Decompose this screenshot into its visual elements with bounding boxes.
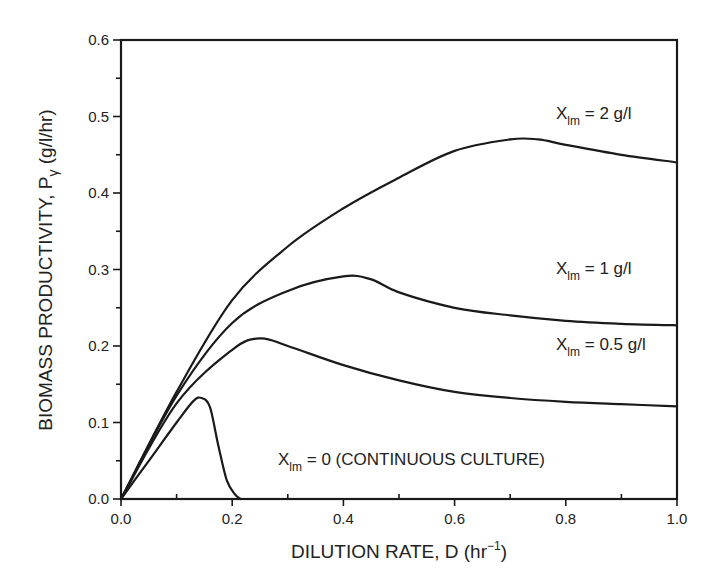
x-axis-title: DILUTION RATE, D (hr−1) [291, 539, 507, 562]
x-tick-label: 0.4 [333, 510, 354, 527]
series-label: Xlm = 1 g/l [556, 259, 632, 283]
x-tick-label: 1.0 [667, 510, 688, 527]
y-axis-title: BIOMASS PRODUCTIVITY, Pγ (g/l/hr) [35, 109, 61, 430]
y-tick-label: 0.1 [88, 414, 109, 431]
biomass-productivity-chart: 0.00.10.20.30.40.50.6 0.00.20.40.60.81.0… [0, 0, 707, 579]
x-tick-label: 0.6 [444, 510, 465, 527]
series-curve-2 [121, 338, 677, 499]
x-tick-label: 0.2 [222, 510, 243, 527]
series-label: Xlm = 2 g/l [556, 104, 632, 128]
y-tick-label: 0.0 [88, 490, 109, 507]
series-label: Xlm = 0.5 g/l [556, 335, 646, 359]
series-label: Xlm = 0 (CONTINUOUS CULTURE) [278, 450, 545, 474]
series-curves [121, 138, 677, 499]
y-tick-label: 0.4 [88, 184, 109, 201]
series-curve-3 [121, 397, 241, 499]
x-tick-label: 0.0 [111, 510, 132, 527]
y-tick-label: 0.6 [88, 31, 109, 48]
y-tick-label: 0.2 [88, 337, 109, 354]
series-annotations: Xlm = 2 g/lXlm = 1 g/lXlm = 0.5 g/lXlm =… [278, 104, 646, 474]
y-axis-ticks: 0.00.10.20.30.40.50.6 [88, 31, 121, 507]
x-tick-label: 0.8 [555, 510, 576, 527]
y-tick-label: 0.3 [88, 261, 109, 278]
y-tick-label: 0.5 [88, 108, 109, 125]
series-curve-0 [121, 138, 677, 499]
